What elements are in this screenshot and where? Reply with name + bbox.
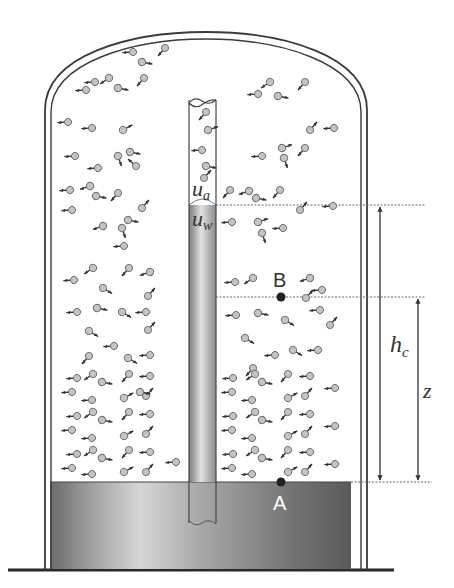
vapor-molecule-icon [119,427,133,442]
vapor-molecule-icon [122,446,133,458]
vapor-molecule-icon [118,307,131,319]
vapor-molecule-icon [241,393,257,409]
vapor-molecule-icon [281,446,292,458]
vapor-molecule-icon [221,461,237,477]
vapor-molecule-icon [122,370,133,382]
vapor-molecule-icon [246,369,259,383]
vapor-molecule-icon [139,445,155,461]
vapor-molecule-icon [324,457,340,473]
vapor-molecule-icon [118,121,132,136]
vapor-molecule-icon [84,369,97,383]
vapor-molecule-icon [99,283,112,295]
vapor-molecule-icon [113,81,128,96]
vapor-molecule-icon [299,407,315,423]
vapor-molecule-icon [223,186,234,198]
vapor-molecule-icon [298,144,309,156]
vapor-molecule-icon [272,221,288,237]
vapor-molecule-icon [97,375,112,390]
vapor-molecule-icon [119,463,133,478]
vapor-molecule-icon [103,339,119,355]
vapor-molecule-icon [119,389,133,404]
vapor-molecule-icon [122,264,133,276]
vapor-molecule-icon [261,77,274,91]
vapor-molecule-icon [264,348,280,364]
water-reservoir [50,482,351,569]
vapor-molecule-icon [324,419,340,435]
vapor-molecule-icon [61,203,77,219]
vapor-molecule-icon [57,115,73,131]
vapor-molecule-icon [324,381,340,397]
vapor-molecule-icon [241,431,257,447]
vapor-molecule-icon [296,202,307,214]
vapor-molecule-icon [84,407,97,421]
vapor-molecule-icon [246,407,259,421]
vapor-molecule-icon [165,455,181,471]
vapor-molecule-icon [158,44,169,56]
vapor-molecule-icon [144,322,155,334]
vapor-molecule-icon [81,393,97,409]
vapor-molecule-icon [281,315,294,327]
vapor-molecule-icon [224,275,240,291]
vapor-molecule-icon [93,219,108,234]
vapor-molecule-icon [111,189,122,201]
vapor-molecule-icon [257,413,272,428]
vapor-molecule-icon [277,139,292,154]
point-a-marker [277,478,286,487]
vapor-molecule-icon [221,385,237,401]
vapor-molecule-icon [302,290,313,302]
vapor-molecule-icon [301,388,312,400]
vapor-molecule-icon [137,55,152,70]
vapor-molecule-icon [61,385,77,401]
vapor-molecule-icon [61,461,77,477]
vapor-molecule-icon [307,343,323,359]
vapor-molecule-icon [63,273,79,289]
vapor-molecule-icon [138,200,149,212]
vapor-molecule-icon [222,447,238,463]
capillary-bell-jar-diagram: ua uw hc z B A [0,0,454,588]
vapor-molecule-icon [139,407,155,423]
vapor-molecule-icon [111,151,126,166]
vapor-molecule-icon [81,431,97,447]
vapor-molecule-icon [113,239,129,255]
vapor-molecule-icon [122,408,133,420]
vapor-molecule-icon [142,426,153,438]
vapor-molecule-icon [66,305,82,321]
point-a-label: A [273,492,287,514]
vapor-molecule-icon [298,78,309,90]
vapor-molecule-icon [199,108,210,120]
vapor-molecule-icon [299,369,315,385]
vapor-molecule-icon [241,467,257,483]
vapor-molecule-icon [225,308,241,324]
vapor-molecule-icon [301,426,312,438]
vapor-molecule-icon [221,423,237,439]
vapor-molecule-icon [311,283,327,299]
vapor-molecule-icon [100,73,113,87]
vapor-molecule-icon [97,413,112,428]
point-b-marker [277,293,286,302]
vapor-molecule-icon [273,186,284,198]
vapor-molecule-icon [140,265,155,280]
vapor-molecule-icon [257,451,272,466]
vapor-molecule-icon [91,189,106,204]
vapor-molecule-icon [66,447,82,463]
vapor-molecule-icon [300,271,315,286]
vapor-molecule-icon [251,149,267,165]
vapor-molecule-icon [61,423,77,439]
vapor-molecule-icon [84,445,97,459]
vapor-molecule-icon [281,370,292,382]
vapor-molecule-icon [144,288,155,300]
vapor-molecule-icon [59,183,75,199]
vapor-molecule-icon [85,326,98,338]
vapor-molecule-icon [139,348,155,364]
vapor-molecule-icon [299,445,315,461]
vapor-molecule-icon [84,263,97,277]
vapor-molecule-icon [253,306,268,321]
vapor-molecule-icon [142,464,153,476]
vapor-molecule-icon [123,213,138,228]
vapor-molecule-icon [306,122,317,134]
capillary-tube [189,99,216,525]
vapor-molecule-icon [139,369,155,385]
vapor-molecule-icon [81,121,97,137]
capillary-height-label: hc [390,331,409,360]
vapor-molecule-icon [239,184,254,199]
